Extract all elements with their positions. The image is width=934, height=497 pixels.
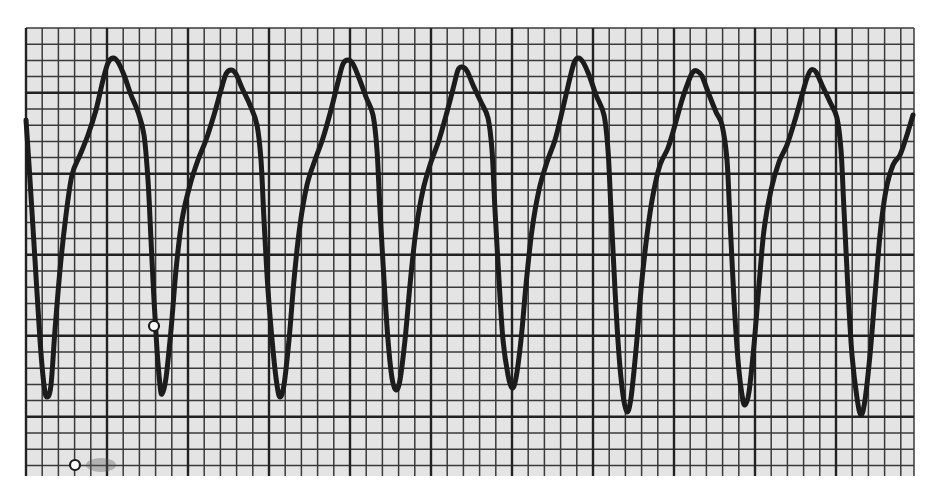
circle-marker-1-icon xyxy=(149,321,159,331)
paper-smudges xyxy=(86,458,116,472)
grid-paper xyxy=(26,28,914,476)
circle-marker-2-icon xyxy=(70,460,80,470)
ecg-strip-svg xyxy=(0,0,934,497)
